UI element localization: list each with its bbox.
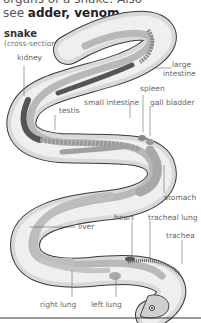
left-lung-organ: [109, 272, 121, 280]
spleen-organ: [138, 135, 146, 141]
label-large-intestine-1: large: [172, 60, 191, 69]
label-tracheal-lung: tracheal lung: [148, 213, 198, 222]
label-kidney: kidney: [17, 53, 42, 62]
label-liver: liver: [78, 222, 94, 231]
label-right-lung: right lung: [40, 300, 76, 309]
label-spleen: spleen: [140, 84, 165, 93]
label-large-intestine-2: intestine: [163, 69, 196, 78]
label-left-lung: left lung: [91, 300, 122, 309]
label-testis: testis: [59, 106, 79, 115]
label-heart: heart: [114, 213, 134, 222]
gall-bladder-organ: [146, 139, 154, 145]
label-trachea: trachea: [166, 231, 195, 240]
snake-cross-section-illustration: [0, 0, 201, 323]
label-gall-bladder: gall bladder: [150, 98, 195, 107]
label-stomach: stomach: [164, 193, 196, 202]
label-small-intestine: small intestine: [84, 98, 139, 107]
